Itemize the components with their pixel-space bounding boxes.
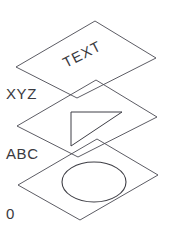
- diagram-canvas: TEXT XYZ ABC 0: [0, 0, 172, 234]
- triangle-shape: [71, 112, 122, 146]
- layer-label-zero: 0: [6, 205, 15, 222]
- bottom-plane-outline: [18, 139, 158, 220]
- layered-planes-diagram: TEXT XYZ ABC 0: [0, 0, 172, 234]
- layer-group-xyz: TEXT XYZ: [6, 21, 156, 102]
- layer-label-abc: ABC: [6, 145, 39, 162]
- plane-content-text: TEXT: [60, 38, 104, 71]
- ellipse-shape: [62, 162, 126, 202]
- layer-label-xyz: XYZ: [6, 85, 37, 102]
